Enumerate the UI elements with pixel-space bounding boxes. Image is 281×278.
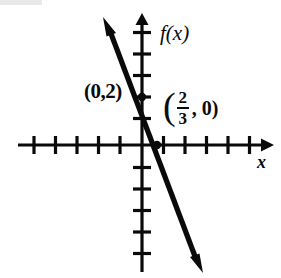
point-marker-y-intercept	[138, 93, 146, 101]
x-intercept-open-paren: (	[163, 91, 176, 122]
y-axis-arrowhead	[136, 13, 149, 25]
x-axis	[18, 136, 274, 154]
function-axis-label: f(x)	[160, 23, 189, 44]
point-marker-x-intercept	[153, 141, 161, 149]
fraction-two-thirds: 2 3	[177, 89, 189, 127]
y-intercept-label: (0,2)	[84, 81, 122, 102]
graph-figure: f(x) x (0,2) ( 2 3 , 0)	[0, 0, 281, 278]
fraction-denominator: 3	[177, 109, 188, 127]
x-axis-arrowhead	[261, 139, 274, 152]
function-line-arrowhead-end	[190, 253, 203, 273]
y-axis	[133, 13, 151, 272]
fraction-numerator: 2	[177, 89, 188, 107]
x-intercept-label: ( 2 3 , 0)	[163, 89, 218, 127]
function-line-arrowhead-start	[103, 17, 116, 37]
coordinate-plane-svg	[0, 0, 281, 278]
x-intercept-close-paren: , 0)	[192, 98, 219, 118]
x-axis-label: x	[257, 153, 266, 171]
